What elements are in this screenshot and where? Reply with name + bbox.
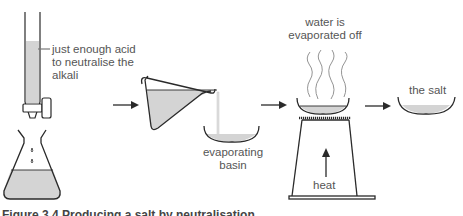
salt-dish bbox=[398, 97, 455, 114]
basin-label: evaporating basin bbox=[198, 146, 268, 172]
burette-label-line-1: just enough acid bbox=[52, 43, 136, 56]
heat-label: heat bbox=[313, 179, 335, 192]
diagram-canvas bbox=[0, 0, 463, 216]
evaporation-label-line-2: evaporated off bbox=[282, 29, 368, 42]
pouring-beaker bbox=[142, 76, 217, 129]
evaporation-label: water is evaporated off bbox=[282, 16, 368, 42]
burette-label-line-3: alkali bbox=[52, 69, 136, 82]
arrow-1 bbox=[113, 101, 139, 109]
pour-stream bbox=[217, 92, 219, 135]
arrow-2 bbox=[261, 101, 287, 109]
acid-drops bbox=[31, 148, 33, 163]
heated-basin bbox=[297, 98, 349, 114]
evaporating-basin bbox=[204, 126, 259, 142]
heat-arrow bbox=[322, 148, 330, 177]
basin-label-line-1: evaporating bbox=[198, 146, 268, 159]
figure-caption: Figure 3.4 Producing a salt by neutralis… bbox=[2, 208, 255, 216]
basin-label-line-2: basin bbox=[198, 159, 268, 172]
arrow-3 bbox=[365, 102, 391, 110]
salt-label: the salt bbox=[409, 84, 446, 97]
conical-flask bbox=[3, 130, 61, 199]
steam-icon bbox=[307, 50, 347, 99]
evaporation-label-line-1: water is bbox=[282, 16, 368, 29]
burette-label: just enough acid to neutralise the alkal… bbox=[52, 43, 136, 82]
burette-label-line-2: to neutralise the bbox=[52, 56, 136, 69]
